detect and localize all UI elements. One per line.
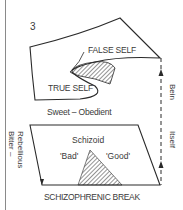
schizoid-label: Schizoid bbox=[72, 136, 104, 145]
bad-label: 'Bad' bbox=[60, 152, 78, 161]
bitter-label: Bitter – bbox=[7, 131, 15, 156]
being-itself-arrow bbox=[159, 58, 164, 185]
itself-label: Itself bbox=[168, 131, 176, 148]
lower-parallelogram bbox=[30, 125, 160, 185]
rebellious-label: Rebellious bbox=[16, 131, 24, 168]
bein-label: Bein bbox=[168, 84, 176, 100]
diagram-drawing bbox=[0, 0, 183, 210]
sweet-obedient-label: Sweet – Obedient bbox=[47, 108, 111, 117]
false-self-label: FALSE SELF bbox=[88, 46, 136, 55]
schizophrenic-break-label: SCHIZOPHRENIC BREAK bbox=[44, 193, 140, 202]
diagram-figure: 3 FALSE SELF TRUE SELF Sweet – Obedient … bbox=[0, 0, 183, 210]
true-self-label: TRUE SELF bbox=[48, 84, 93, 93]
figure-number: 3 bbox=[30, 22, 36, 32]
good-label: 'Good' bbox=[106, 152, 130, 161]
